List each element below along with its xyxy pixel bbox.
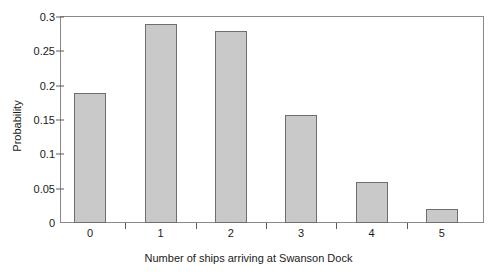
y-tick-label: 0.3 — [0, 11, 55, 23]
bar-4 — [356, 182, 388, 223]
y-tick-mark — [56, 85, 64, 86]
bar-0 — [74, 93, 106, 223]
bars-layer — [61, 17, 483, 223]
x-tick-mark — [125, 223, 126, 229]
bar-chart: Probability 012345 Number of ships arriv… — [0, 0, 497, 277]
y-tick-label: 0 — [0, 217, 55, 229]
y-tick-mark — [56, 17, 64, 18]
x-tick-label: 1 — [157, 227, 163, 239]
bar-2 — [215, 31, 247, 223]
x-tick-label: 5 — [439, 227, 445, 239]
bar-5 — [426, 209, 458, 223]
x-tick-mark — [336, 223, 337, 229]
x-tick-mark — [196, 223, 197, 229]
x-tick-label: 0 — [87, 227, 93, 239]
bar-1 — [145, 24, 177, 223]
y-tick-mark — [56, 154, 64, 155]
y-tick-label: 0.05 — [0, 183, 55, 195]
bar-3 — [285, 115, 317, 223]
y-tick-label: 0.25 — [0, 45, 55, 57]
x-tick-label: 4 — [368, 227, 374, 239]
y-tick-label: 0.1 — [0, 148, 55, 160]
y-tick-label: 0.2 — [0, 80, 55, 92]
y-tick-mark — [56, 120, 64, 121]
x-axis-title: Number of ships arriving at Swanson Dock — [0, 252, 497, 264]
y-axis — [0, 0, 55, 277]
y-tick-label: 0.15 — [0, 114, 55, 126]
x-tick-mark — [266, 223, 267, 229]
y-tick-mark — [56, 51, 64, 52]
x-tick-label: 3 — [298, 227, 304, 239]
x-tick-label: 2 — [228, 227, 234, 239]
x-tick-mark — [407, 223, 408, 229]
y-tick-mark — [56, 188, 64, 189]
